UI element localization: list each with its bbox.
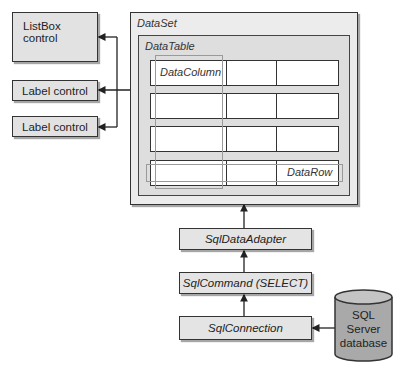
label-control-1-label: Label control <box>22 85 88 97</box>
label-control-2-label: Label control <box>22 121 88 133</box>
sqlconnection-box: SqlConnection <box>179 316 312 340</box>
label-control-2: Label control <box>12 116 98 137</box>
database-label-line2: Server <box>335 322 392 336</box>
listbox-label: ListBox control <box>23 20 97 44</box>
datatable-title: DataTable <box>145 40 195 52</box>
sqldataadapter-box: SqlDataAdapter <box>179 228 312 250</box>
database-label: SQL Server database <box>335 308 392 350</box>
datarow-label: DataRow <box>287 166 332 178</box>
datacolumn-label: DataColumn <box>160 66 221 78</box>
sqlcommand-box: SqlCommand (SELECT) <box>179 272 312 294</box>
sqlcommand-label: SqlCommand (SELECT) <box>183 277 308 289</box>
database-label-line3: database <box>335 336 392 350</box>
sqldataadapter-label: SqlDataAdapter <box>205 233 286 245</box>
database-label-line1: SQL <box>335 308 392 322</box>
listbox-control: ListBox control <box>12 12 98 62</box>
label-control-1: Label control <box>12 80 98 101</box>
sqlconnection-label: SqlConnection <box>208 322 283 334</box>
dataset-title: DataSet <box>137 17 177 29</box>
